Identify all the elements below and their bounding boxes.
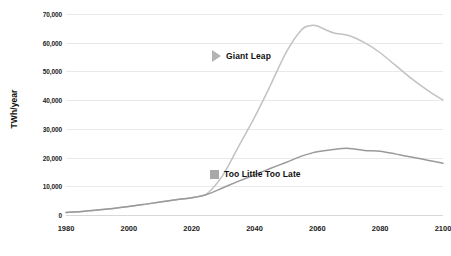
x-tick-label: 2000 xyxy=(120,224,137,233)
plot-area xyxy=(66,14,443,215)
gridline xyxy=(66,215,443,216)
y-tick-label: 70,000 xyxy=(43,11,62,18)
x-tick-label: 2060 xyxy=(309,224,326,233)
triangle-marker-icon xyxy=(212,50,221,62)
series-line-too-little-too-late xyxy=(66,148,443,212)
y-tick-label: 0 xyxy=(58,212,62,219)
x-axis-tick-labels: 1980200020202040206020802100 xyxy=(66,224,443,240)
y-tick-label: 60,000 xyxy=(43,39,62,46)
x-tick-label: 1980 xyxy=(58,224,75,233)
y-tick-label: 50,000 xyxy=(43,68,62,75)
legend-item-too-little-too-late: Too Little Too Late xyxy=(210,169,301,179)
y-tick-label: 30,000 xyxy=(43,125,62,132)
series-lines xyxy=(66,14,443,215)
y-axis-tick-labels: 010,00020,00030,00040,00050,00060,00070,… xyxy=(20,0,64,218)
y-tick-label: 40,000 xyxy=(43,97,62,104)
x-tick-label: 2080 xyxy=(372,224,389,233)
y-axis-title-text: TWh/year xyxy=(9,89,19,128)
y-tick-label: 10,000 xyxy=(43,183,62,190)
legend-label-giant-leap: Giant Leap xyxy=(226,51,271,61)
x-tick-label: 2040 xyxy=(246,224,263,233)
x-tick-label: 2020 xyxy=(183,224,200,233)
x-tick-label: 2100 xyxy=(435,224,451,233)
square-marker-icon xyxy=(210,170,219,179)
legend-label-too-little-too-late: Too Little Too Late xyxy=(224,169,301,179)
y-tick-label: 20,000 xyxy=(43,154,62,161)
legend-item-giant-leap: Giant Leap xyxy=(212,50,271,62)
